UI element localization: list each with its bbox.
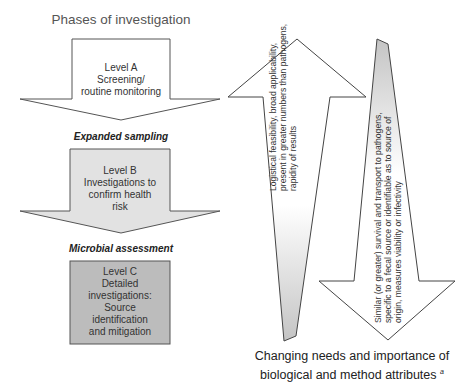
down-arrow-line: specific to a fecal source or identifiab… [383, 112, 393, 323]
down-arrow-text: Similar (or greater) survival and transp… [373, 112, 403, 323]
caption: Changing needs and importance of biologi… [232, 349, 472, 383]
caption-line-2-text: biological and method attributes [260, 368, 437, 382]
level-c-line: identification [70, 314, 170, 326]
up-arrow-text: Logistical feasibility, broad applicabil… [268, 24, 298, 191]
level-b-line: confirm health [70, 189, 170, 201]
level-b-line: Level B [70, 165, 170, 177]
up-arrow-line: rapidity of results [288, 24, 298, 191]
level-c-line: and mitigation [70, 326, 170, 338]
diagram-title: Phases of investigation [0, 12, 242, 27]
level-a-line: routine monitoring [72, 86, 170, 98]
down-arrow-line: origin, measures viability or infectivit… [393, 112, 403, 323]
up-arrow-line: Logistical feasibility, broad applicabil… [268, 24, 278, 191]
level-c-line: investigations: [70, 290, 170, 302]
up-arrow-line: present in greater numbers than pathogen… [278, 24, 288, 191]
phase-connector-expanded-sampling: Expanded sampling [0, 131, 242, 142]
caption-line-2: biological and method attributes a [232, 364, 472, 383]
level-b-line: risk [70, 201, 170, 213]
caption-footnote-marker: a [440, 368, 444, 375]
level-c-label: Level C Detailed investigations: Source … [70, 266, 170, 338]
level-a-line: Screening/ [72, 74, 170, 86]
level-c-line: Source [70, 302, 170, 314]
level-b-label: Level B Investigations to confirm health… [70, 165, 170, 213]
level-a-label: Level A Screening/ routine monitoring [72, 62, 170, 98]
phase-connector-microbial-assessment: Microbial assessment [0, 243, 242, 254]
caption-line-1: Changing needs and importance of [232, 349, 472, 364]
level-c-line: Level C [70, 266, 170, 278]
level-c-line: Detailed [70, 278, 170, 290]
level-b-line: Investigations to [70, 177, 170, 189]
level-a-line: Level A [72, 62, 170, 74]
down-arrow-line: Similar (or greater) survival and transp… [373, 112, 383, 323]
